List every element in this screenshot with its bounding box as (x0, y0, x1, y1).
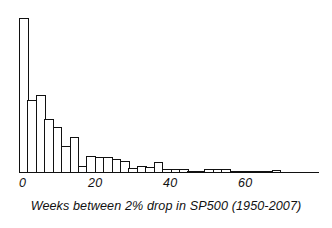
bar-series (19, 14, 319, 172)
x-tick-label-60: 60 (238, 176, 253, 190)
x-axis-line (19, 172, 319, 173)
x-axis-tick-labels: 0204060 (0, 176, 332, 196)
x-axis-caption: Weeks between 2% drop in SP500 (1950-200… (0, 199, 332, 213)
plot-area (19, 14, 319, 172)
x-tick-label-40: 40 (163, 176, 178, 190)
histogram-figure: 0204060 Weeks between 2% drop in SP500 (… (0, 0, 332, 228)
x-tick-label-0: 0 (19, 176, 26, 190)
x-tick-label-20: 20 (88, 176, 103, 190)
